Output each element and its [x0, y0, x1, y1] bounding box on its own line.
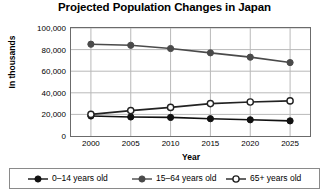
y-axis-tick-labels: 020,00040,00060,00080,000100,000	[16, 0, 66, 191]
chart-legend: 0–14 years old15–64 years old65+ years o…	[9, 168, 320, 189]
plot-svg	[71, 28, 310, 136]
data-point-marker	[287, 59, 293, 65]
data-point-marker	[287, 118, 293, 124]
y-axis-tick: 100,000	[20, 24, 66, 33]
data-point-marker	[287, 98, 293, 104]
legend-item[interactable]: 0–14 years old	[28, 173, 108, 184]
data-point-marker	[207, 101, 213, 107]
chart-container: Projected Population Changes in Japan In…	[0, 0, 329, 191]
data-point-marker	[167, 45, 173, 51]
legend-item[interactable]: 15–64 years old	[132, 173, 217, 184]
legend-label: 0–14 years old	[52, 173, 108, 184]
data-point-marker	[128, 114, 134, 120]
data-point-marker	[247, 117, 253, 123]
x-axis-tick: 2025	[270, 139, 310, 148]
data-point-marker	[247, 99, 253, 105]
x-axis-tick: 2015	[190, 139, 230, 148]
y-axis-tick: 60,000	[20, 67, 66, 76]
y-axis-tick: 0	[20, 132, 66, 141]
y-axis-tick: 40,000	[20, 88, 66, 97]
data-point-marker	[207, 116, 213, 122]
legend-marker-icon	[132, 174, 152, 184]
data-point-marker	[207, 50, 213, 56]
legend-marker-icon	[28, 174, 48, 184]
data-point-marker	[88, 41, 94, 47]
data-point-marker	[247, 54, 253, 60]
x-axis-tick: 2010	[151, 139, 191, 148]
data-point-marker	[88, 111, 94, 117]
x-axis-tick: 2020	[230, 139, 270, 148]
x-axis-tick: 2005	[111, 139, 151, 148]
series-line	[91, 101, 290, 115]
x-axis-label: Year	[70, 152, 312, 162]
data-point-marker	[128, 42, 134, 48]
y-axis-tick: 20,000	[20, 110, 66, 119]
legend-label: 65+ years old	[250, 173, 301, 184]
y-axis-tick: 80,000	[20, 45, 66, 54]
plot-area	[70, 27, 311, 137]
series-line	[91, 116, 290, 121]
data-point-marker	[167, 104, 173, 110]
series-line	[91, 44, 290, 62]
x-axis-tick: 2000	[71, 139, 111, 148]
data-point-marker	[167, 114, 173, 120]
data-point-marker	[128, 108, 134, 114]
legend-label: 15–64 years old	[156, 173, 217, 184]
legend-marker-icon	[226, 174, 246, 184]
legend-item[interactable]: 65+ years old	[226, 173, 301, 184]
